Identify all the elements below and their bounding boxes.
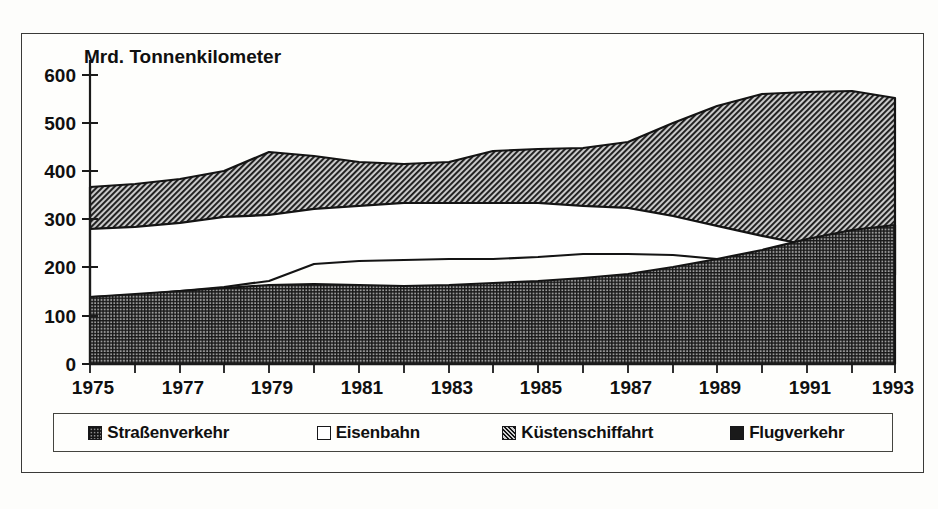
sea-hatch-swatch xyxy=(502,426,516,440)
x-tick-label: 1989 xyxy=(699,377,741,398)
x-tick-label: 1983 xyxy=(431,377,473,398)
x-tick-label: 1975 xyxy=(72,377,115,398)
y-tick-label: 200 xyxy=(44,257,76,278)
legend-item-eisenbahn[interactable]: Eisenbahn xyxy=(264,423,474,443)
legend-item-strassenverkehr[interactable]: Straßenverkehr xyxy=(54,423,264,443)
y-tick-label: 600 xyxy=(44,65,76,86)
chart-title: Mrd. Tonnenkilometer xyxy=(84,46,282,67)
x-tick-label: 1977 xyxy=(162,377,204,398)
chart-legend: Straßenverkehr Eisenbahn Küstenschiffahr… xyxy=(53,413,893,452)
x-tick-label: 1993 xyxy=(872,377,914,398)
legend-item-flugverkehr[interactable]: Flugverkehr xyxy=(683,423,893,443)
y-tick-label: 100 xyxy=(44,306,76,327)
y-axis-labels: 600 500 400 300 200 100 0 xyxy=(44,65,76,375)
x-tick-label: 1981 xyxy=(341,377,384,398)
x-axis-ticks xyxy=(90,364,895,373)
y-tick-label: 300 xyxy=(44,209,76,230)
legend-label: Eisenbahn xyxy=(336,423,420,443)
legend-item-kuestenschiffahrt[interactable]: Küstenschiffahrt xyxy=(473,423,683,443)
chart-page: 600 500 400 300 200 100 0 xyxy=(0,0,938,509)
rail-white-swatch xyxy=(317,426,331,440)
x-tick-label: 1985 xyxy=(520,377,563,398)
area-bands xyxy=(90,91,895,364)
x-axis-labels: 1975 1977 1979 1981 1983 1985 1987 1989 … xyxy=(72,377,914,398)
y-tick-label: 0 xyxy=(65,354,76,375)
legend-label: Küstenschiffahrt xyxy=(521,423,653,443)
legend-label: Straßenverkehr xyxy=(107,423,229,443)
y-tick-label: 500 xyxy=(44,113,76,134)
road-grid-swatch xyxy=(88,426,102,440)
air-solid-swatch xyxy=(730,426,744,440)
legend-label: Flugverkehr xyxy=(749,423,844,443)
y-tick-label: 400 xyxy=(44,161,76,182)
x-tick-label: 1987 xyxy=(610,377,652,398)
x-tick-label: 1979 xyxy=(251,377,293,398)
x-tick-label: 1991 xyxy=(789,377,832,398)
